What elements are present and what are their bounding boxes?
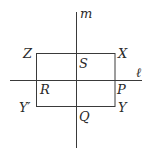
label-point-p: P [116, 82, 126, 97]
label-point-s: S [79, 56, 88, 71]
label-point-r: R [39, 82, 50, 97]
label-point-y-prime: Y′ [19, 100, 31, 115]
label-point-q: Q [79, 109, 90, 124]
label-point-z: Z [22, 46, 33, 61]
label-line-l: ℓ [136, 65, 142, 80]
label-point-y: Y [118, 100, 128, 115]
label-line-m: m [80, 6, 92, 21]
reflection-diagram: m ℓ Z X S R P Y′ Q Y [0, 0, 158, 153]
label-point-x: X [117, 46, 128, 61]
